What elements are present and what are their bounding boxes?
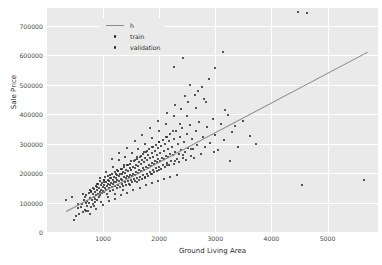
scatter-point-train (206, 126, 208, 128)
scatter-point-train (131, 152, 133, 154)
scatter-point-validation (174, 160, 176, 162)
scatter-point-train (191, 138, 193, 140)
scatter-point-train (82, 193, 84, 195)
scatter-point-validation (146, 150, 148, 152)
scatter-point-train (102, 204, 104, 206)
scatter-point-train (96, 199, 98, 201)
scatter-point-train (151, 152, 153, 154)
legend-item-validation[interactable]: validation (104, 43, 160, 52)
scatter-point-train (167, 148, 169, 150)
scatter-point-train (80, 206, 82, 208)
scatter-point-train (177, 143, 179, 145)
scatter-point-train (65, 199, 67, 201)
scatter-point-train (154, 150, 156, 152)
gridline-vertical (215, 8, 216, 232)
scatter-point-validation (149, 127, 151, 129)
scatter-point-validation (134, 140, 136, 142)
scatter-point-train (99, 177, 101, 179)
scatter-point-train (190, 155, 192, 157)
scatter-point-train (71, 196, 73, 198)
scatter-point-train (201, 86, 203, 88)
scatter-point-train (122, 185, 124, 187)
gridline-vertical (271, 8, 272, 232)
scatter-point-train (171, 146, 173, 148)
scatter-point-validation (141, 134, 143, 136)
scatter-point-train (104, 176, 106, 178)
scatter-point-validation (129, 184, 131, 186)
scatter-point-train (112, 166, 114, 168)
scatter-point-validation (115, 173, 117, 175)
scatter-point-train (196, 144, 198, 146)
scatter-point-train (170, 160, 172, 162)
scatter-point-train (200, 153, 202, 155)
scatter-point-validation (184, 95, 186, 97)
scatter-point-train (227, 114, 229, 116)
scatter-point-train (92, 187, 94, 189)
scatter-point-train (301, 184, 303, 186)
scatter-point-validation (100, 201, 102, 203)
plot-area: h train validation (47, 8, 378, 232)
regression-line-h (66, 52, 368, 212)
scatter-point-train (173, 138, 175, 140)
x-axis-ticks: 10002000300040005000 (47, 235, 378, 247)
scatter-point-train (208, 78, 210, 80)
scatter-point-train (126, 192, 128, 194)
scatter-point-train (189, 124, 191, 126)
scatter-point-validation (173, 66, 175, 68)
scatter-point-train (96, 189, 98, 191)
scatter-point-train (95, 208, 97, 210)
scatter-point-train (78, 213, 80, 215)
scatter-point-train (109, 190, 111, 192)
scatter-point-train (217, 149, 219, 151)
scatter-point-train (297, 11, 299, 13)
scatter-point-train (86, 205, 88, 207)
scatter-point-train (192, 148, 194, 150)
scatter-point-validation (165, 136, 167, 138)
legend-item-train[interactable]: train (104, 32, 160, 41)
scatter-point-validation (189, 84, 191, 86)
scatter-point-train (94, 191, 96, 193)
scatter-point-train (164, 166, 166, 168)
scatter-point-train (162, 139, 164, 141)
scatter-point-train (147, 175, 149, 177)
scatter-point-train (140, 163, 142, 165)
scatter-point-validation (151, 173, 153, 175)
scatter-point-train (119, 186, 121, 188)
scatter-point-train (151, 182, 153, 184)
legend-item-h[interactable]: h (104, 21, 160, 30)
scatter-point-train (77, 207, 79, 209)
scatter-point-train (175, 130, 177, 132)
scatter-point-train (168, 140, 170, 142)
scatter-point-train (178, 161, 180, 163)
scatter-point-validation (182, 57, 184, 59)
x-axis-label: Ground Living Area (47, 247, 378, 255)
y-tick-label: 500000 (19, 81, 43, 88)
scatter-point-train (204, 146, 206, 148)
scatter-point-train (163, 150, 165, 152)
scatter-point-train (127, 180, 129, 182)
scatter-point-train (94, 201, 96, 203)
scatter-point-train (220, 123, 222, 125)
scatter-point-train (242, 120, 244, 122)
scatter-point-train (132, 189, 134, 191)
scatter-point-validation (234, 125, 236, 127)
scatter-point-train (160, 168, 162, 170)
scatter-point-train (151, 137, 153, 139)
chart-legend[interactable]: h train validation (100, 18, 165, 55)
scatter-point-train (87, 210, 89, 212)
scatter-point-train (363, 179, 365, 181)
scatter-point-train (163, 178, 165, 180)
scatter-point-validation (203, 98, 205, 100)
scatter-point-validation (118, 152, 120, 154)
scatter-point-train (116, 187, 118, 189)
scatter-point-validation (229, 160, 231, 162)
scatter-point-train (124, 156, 126, 158)
scatter-point-train (212, 118, 214, 120)
scatter-point-train (156, 154, 158, 156)
scatter-point-train (169, 133, 171, 135)
scatter-point-train (146, 159, 148, 161)
line-swatch-icon (104, 25, 126, 26)
scatter-point-train (130, 169, 132, 171)
legend-label-train: train (130, 33, 144, 40)
x-tick-label: 4000 (264, 235, 280, 242)
